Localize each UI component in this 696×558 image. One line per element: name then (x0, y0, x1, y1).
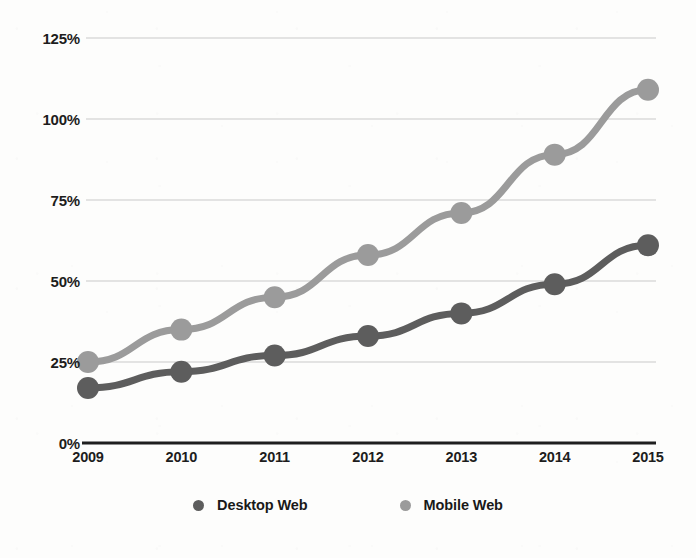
x-axis-tick-label: 2015 (632, 449, 663, 465)
data-point-marker: Desktop Web 2009: 17% (77, 377, 99, 399)
data-series-group: Desktop Web 2009: 17%Desktop Web 2010: 2… (77, 79, 659, 399)
data-point-marker: Mobile Web 2014: 89% (544, 144, 566, 166)
series-line (88, 90, 648, 362)
chart-plot-area: Desktop Web 2009: 17%Desktop Web 2010: 2… (0, 0, 696, 558)
x-axis-tick-label: 2009 (72, 449, 103, 465)
data-point-marker: Desktop Web 2010: 22% (170, 361, 192, 383)
legend-dot-desktop-icon (193, 500, 204, 511)
x-axis-tick-label: 2012 (352, 449, 383, 465)
y-axis-tick-label: 100% (8, 111, 80, 128)
data-point-marker: Desktop Web 2011: 27% (264, 345, 286, 367)
y-axis-tick-label: 25% (8, 354, 80, 371)
y-axis-tick-label: 0% (8, 435, 80, 452)
legend-item-mobile-web[interactable]: Mobile Web (400, 497, 503, 513)
data-point-marker: Mobile Web 2009: 25% (77, 351, 99, 373)
y-axis-tick-label: 75% (8, 192, 80, 209)
legend-item-desktop-web[interactable]: Desktop Web (193, 497, 307, 513)
x-axis-tick-label: 2011 (259, 449, 290, 465)
legend-label: Desktop Web (217, 497, 307, 513)
y-axis-tick-label: 125% (8, 30, 80, 47)
legend-label: Mobile Web (424, 497, 503, 513)
data-point-marker: Mobile Web 2015: 109% (637, 79, 659, 101)
y-axis-tick-label: 50% (8, 273, 80, 290)
data-point-marker: Desktop Web 2015: 61% (637, 234, 659, 256)
data-point-marker: Desktop Web 2012: 33% (357, 325, 379, 347)
data-point-marker: Mobile Web 2012: 58% (357, 244, 379, 266)
legend-dot-mobile-icon (400, 500, 411, 511)
data-point-marker: Desktop Web 2014: 49% (544, 273, 566, 295)
data-point-marker: Mobile Web 2013: 71% (450, 202, 472, 224)
x-axis-tick-label: 2014 (539, 449, 570, 465)
chart-legend: Desktop WebMobile Web (0, 497, 696, 513)
data-point-marker: Desktop Web 2013: 40% (450, 302, 472, 324)
x-axis-tick-label: 2013 (446, 449, 477, 465)
data-point-marker: Mobile Web 2010: 35% (170, 319, 192, 341)
line-chart: Desktop Web 2009: 17%Desktop Web 2010: 2… (0, 0, 696, 558)
x-axis-tick-label: 2010 (166, 449, 197, 465)
data-point-marker: Mobile Web 2011: 45% (264, 286, 286, 308)
y-axis-tick-labels: 125%100%75%50%25%0% (8, 0, 80, 558)
gridlines-group (86, 38, 656, 362)
